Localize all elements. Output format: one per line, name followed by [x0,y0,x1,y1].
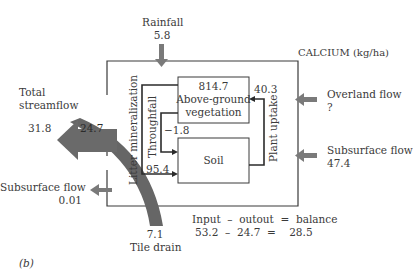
diagram-title: CALCIUM (kg/ha) [298,46,389,59]
overland-flow-label: Overland flow [327,88,402,101]
subsurface-outflow-value: 0.01 [0,194,82,207]
subsurface-inflow-value: 47.4 [327,157,350,170]
soil-label: Soil [178,154,249,167]
litter-mineralization-value: 95.4 [146,163,169,176]
plant-uptake-path [249,99,264,165]
streamflow-total-value: 31.8 [28,122,51,135]
vegetation-label-line2: vegetation [178,106,249,119]
streamflow-label-line2: streamflow [19,99,78,112]
tile-drain-label: Tile drain [130,241,180,254]
overland-flow-value: ? [327,101,333,114]
litter-arrowhead-icon [172,171,178,177]
panel-label: (b) [19,257,34,270]
plant-uptake-value: 40.3 [254,83,277,96]
tile-drain-value: 7.1 [135,228,175,241]
rainfall-label: Rainfall [142,16,182,29]
vegetation-value: 814.7 [178,80,249,93]
streamflow-arrow-value: 24.7 [80,122,103,135]
rainfall-value: 5.8 [142,29,182,42]
streamflow-label-line1: Total [19,86,45,99]
subsurface-outflow-label: Subsurface flow [0,181,82,194]
balance-header: Input – outout = balance [192,213,337,226]
balance-equation: 53.2 – 24.7 = 28.5 [195,226,313,239]
plant-uptake-label: Plant uptake [267,94,279,162]
subsurface-inflow-label: Subsurface flow [327,144,413,157]
litter-mineralization-label: Litter mineralization [127,75,139,185]
throughfall-label: Throughfall [146,96,158,158]
rainfall-arrow-icon [155,44,168,67]
throughfall-value: −1.8 [164,124,190,137]
subsurface-outflow-arrow-icon [90,184,112,196]
vegetation-label-line1: Above-ground [170,93,257,106]
